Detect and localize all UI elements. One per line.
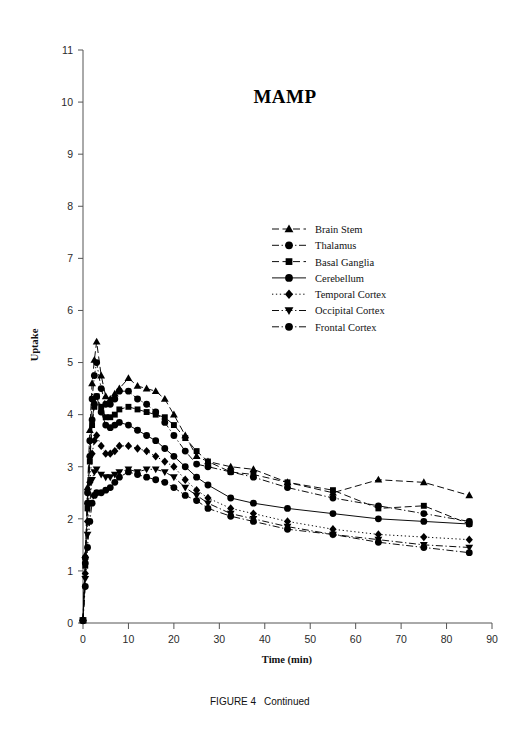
data-point-diamond: [182, 476, 189, 484]
legend-item-basal-ganglia[interactable]: Basal Ganglia: [272, 257, 375, 268]
data-point-circle: [86, 518, 93, 525]
y-axis-tick-label: 7: [67, 252, 73, 264]
data-point-diamond: [98, 442, 105, 450]
series-line: [83, 469, 469, 620]
data-point-circle: [420, 510, 427, 517]
data-point-circle: [107, 484, 114, 491]
data-point-circle: [330, 510, 337, 517]
data-point-circle: [91, 372, 98, 379]
chart-title: MAMP: [253, 86, 316, 107]
data-point-circle: [98, 409, 105, 416]
legend-item-frontal-cortex[interactable]: Frontal Cortex: [272, 322, 377, 333]
x-axis-tick-label: 40: [259, 633, 271, 645]
data-point-circle: [125, 469, 132, 476]
legend-label: Brain Stem: [315, 224, 363, 235]
data-point-circle: [375, 515, 382, 522]
data-point-triangle-up: [285, 224, 294, 232]
data-point-circle: [284, 505, 291, 512]
y-axis-title-group: Uptake: [29, 328, 40, 361]
figure-caption-group: FIGURE 4 Continued: [210, 696, 310, 707]
data-point-triangle-up: [465, 491, 473, 498]
legend-item-thalamus[interactable]: Thalamus: [272, 240, 356, 251]
data-point-circle: [170, 484, 177, 491]
data-point-triangle-down: [170, 474, 178, 481]
y-axis-tick-label: 3: [67, 461, 73, 473]
data-point-diamond: [152, 452, 159, 460]
series-thalamus: [80, 359, 473, 624]
series-brain-stem: [79, 338, 473, 624]
data-point-circle: [170, 453, 177, 460]
x-axis-tick-label: 50: [304, 633, 316, 645]
data-point-circle: [125, 422, 132, 429]
data-point-circle: [116, 388, 123, 395]
data-point-square: [330, 487, 336, 493]
data-point-circle: [93, 393, 100, 400]
data-point-triangle-up: [88, 379, 96, 386]
series-cerebellum: [80, 393, 473, 624]
data-point-circle: [182, 463, 189, 470]
data-point-diamond: [134, 444, 141, 452]
legend-label: Frontal Cortex: [315, 322, 377, 333]
data-point-circle: [161, 445, 168, 452]
data-point-circle: [285, 274, 293, 282]
data-point-triangle-up: [93, 338, 101, 345]
legend-item-temporal-cortex[interactable]: Temporal Cortex: [272, 289, 387, 300]
legend-label: Thalamus: [315, 240, 356, 251]
data-point-square: [182, 435, 188, 441]
data-point-triangle-up: [375, 476, 383, 483]
figure-container: MAMP 012345678910110102030405060708090 B…: [0, 0, 523, 746]
x-axis-title: Time (min): [262, 654, 313, 666]
data-point-triangle-up: [152, 387, 160, 394]
data-point-circle: [182, 448, 189, 455]
data-point-triangle-down: [285, 307, 294, 315]
data-point-circle: [134, 427, 141, 434]
legend-item-occipital-cortex[interactable]: Occipital Cortex: [272, 305, 385, 316]
data-point-circle: [193, 497, 200, 504]
data-point-circle: [152, 437, 159, 444]
data-point-circle: [466, 549, 473, 556]
data-point-circle: [98, 385, 105, 392]
x-axis-tick-label: 80: [441, 633, 453, 645]
y-axis-tick-label: 11: [62, 44, 73, 56]
data-point-circle: [134, 471, 141, 478]
data-point-diamond: [285, 289, 293, 298]
series-line: [83, 342, 469, 621]
data-point-square: [153, 412, 159, 418]
data-point-circle: [285, 241, 293, 249]
y-axis-tick-label: 4: [67, 408, 73, 420]
data-point-triangle-up: [170, 411, 178, 418]
legend-label: Temporal Cortex: [315, 289, 387, 300]
x-axis-tick-label: 10: [123, 633, 135, 645]
y-axis-tick-label: 6: [67, 304, 73, 316]
data-point-circle: [80, 617, 87, 624]
data-point-circle: [227, 513, 234, 520]
chart-axes: 012345678910110102030405060708090: [61, 44, 498, 645]
legend-label: Cerebellum: [315, 273, 364, 284]
data-point-diamond: [143, 447, 150, 455]
series-line: [83, 363, 469, 621]
legend-item-cerebellum[interactable]: Cerebellum: [272, 273, 364, 284]
data-point-circle: [330, 495, 337, 502]
data-point-circle: [161, 479, 168, 486]
legend-item-brain-stem[interactable]: Brain Stem: [272, 224, 363, 235]
data-point-triangle-up: [134, 382, 142, 389]
data-point-circle: [84, 544, 91, 551]
data-point-circle: [125, 388, 132, 395]
data-point-circle: [91, 401, 98, 408]
data-point-diamond: [420, 533, 427, 541]
x-axis-tick-label: 90: [486, 633, 498, 645]
data-point-circle: [116, 419, 123, 426]
data-point-square: [286, 258, 293, 265]
legend-label: Occipital Cortex: [315, 305, 385, 316]
y-axis-tick-label: 0: [67, 617, 73, 629]
y-axis-title: Uptake: [29, 328, 40, 361]
data-point-circle: [111, 479, 118, 486]
x-axis-title-group: Time (min): [262, 654, 313, 666]
data-point-triangle-down: [181, 485, 189, 492]
data-point-square: [205, 459, 211, 465]
data-point-circle: [107, 401, 114, 408]
data-point-circle: [143, 401, 150, 408]
data-point-square: [285, 479, 291, 485]
data-point-circle: [170, 432, 177, 439]
data-point-circle: [111, 396, 118, 403]
